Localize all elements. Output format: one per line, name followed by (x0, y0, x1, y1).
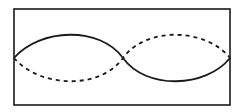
standing-wave-diagram (0, 0, 244, 112)
dashed-wave-curve (14, 35, 230, 82)
